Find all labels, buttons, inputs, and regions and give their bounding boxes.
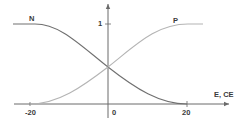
label-p: P: [173, 16, 178, 25]
curve-p: [30, 24, 203, 104]
y-tick-label-1: 1: [98, 19, 102, 28]
x-axis-label: E, CE: [214, 90, 234, 99]
x-tick-label-20: 20: [182, 108, 190, 117]
membership-diagram: N P 1 -20 0 20 E, CE: [0, 0, 245, 123]
x-tick-label-minus-20: -20: [25, 108, 36, 117]
x-tick-label-0: 0: [112, 108, 116, 117]
curve-n: [13, 24, 187, 104]
label-n: N: [29, 14, 34, 23]
